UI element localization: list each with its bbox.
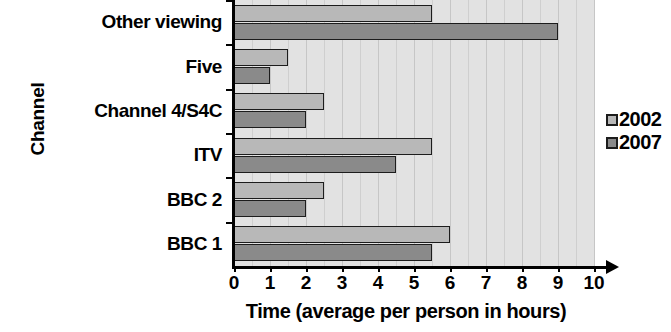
- bar-2002-other-viewing: [234, 5, 432, 22]
- chart-legend: 20022007: [606, 108, 662, 154]
- bar-2002-five: [234, 49, 288, 66]
- bar-2007-five: [234, 67, 270, 84]
- x-axis-tick-label-4: 4: [358, 272, 398, 294]
- y-axis-label-channel-4-s4c: Channel 4/S4C: [0, 100, 222, 122]
- legend-label-2007: 2007: [619, 131, 662, 154]
- x-axis-tick-label-2: 2: [286, 272, 326, 294]
- y-axis-tick-labels: BBC 1BBC 2ITVChannel 4/S4CFiveOther view…: [0, 0, 228, 266]
- x-axis-tick-label-3: 3: [322, 272, 362, 294]
- bar-2007-channel-4-s4c: [234, 111, 306, 128]
- x-axis-line: [232, 266, 610, 269]
- bar-2002-bbc-1: [234, 226, 450, 243]
- y-axis-label-other-viewing: Other viewing: [0, 11, 222, 33]
- x-axis-tick-label-9: 9: [538, 272, 578, 294]
- bar-2007-bbc-2: [234, 200, 306, 217]
- gridline: [594, 0, 595, 266]
- legend-swatch-2007: [606, 137, 618, 149]
- x-axis-tick-label-1: 1: [250, 272, 290, 294]
- x-axis-tick-label-6: 6: [430, 272, 470, 294]
- gridline: [558, 0, 559, 266]
- y-axis-tick: [226, 89, 233, 91]
- legend-label-2002: 2002: [619, 108, 662, 131]
- bar-2007-bbc-1: [234, 244, 432, 261]
- legend-item-2007[interactable]: 2007: [606, 131, 662, 154]
- y-axis-label-five: Five: [0, 56, 222, 78]
- gridline: [486, 0, 487, 266]
- gridline: [504, 0, 505, 266]
- plot-area: [234, 0, 594, 266]
- legend-item-2002[interactable]: 2002: [606, 108, 662, 131]
- gridline: [576, 0, 577, 266]
- x-axis-tick-label-5: 5: [394, 272, 434, 294]
- x-axis-tick-label-8: 8: [502, 272, 542, 294]
- gridline: [450, 0, 451, 266]
- y-axis-label-bbc-2: BBC 2: [0, 189, 222, 211]
- legend-swatch-2002: [606, 114, 618, 126]
- bar-chart-figure: Channel BBC 1BBC 2ITVChannel 4/S4CFiveOt…: [0, 0, 671, 332]
- y-axis-tick: [226, 222, 233, 224]
- bar-2007-other-viewing: [234, 23, 558, 40]
- y-axis-tick: [226, 133, 233, 135]
- bar-2007-itv: [234, 156, 396, 173]
- y-axis-tick: [226, 177, 233, 179]
- gridline: [522, 0, 523, 266]
- x-axis-tick-label-0: 0: [214, 272, 254, 294]
- bar-2002-itv: [234, 138, 432, 155]
- gridline: [468, 0, 469, 266]
- y-axis-label-bbc-1: BBC 1: [0, 233, 222, 255]
- y-axis-label-itv: ITV: [0, 144, 222, 166]
- x-axis-title: Time (average per person in hours): [196, 300, 616, 323]
- x-axis-tick-label-10: 10: [574, 272, 614, 294]
- y-axis-tick: [226, 44, 233, 46]
- bar-2002-channel-4-s4c: [234, 93, 324, 110]
- y-axis-tick: [226, 0, 233, 2]
- gridline: [540, 0, 541, 266]
- bar-2002-bbc-2: [234, 182, 324, 199]
- x-axis-tick-label-7: 7: [466, 272, 506, 294]
